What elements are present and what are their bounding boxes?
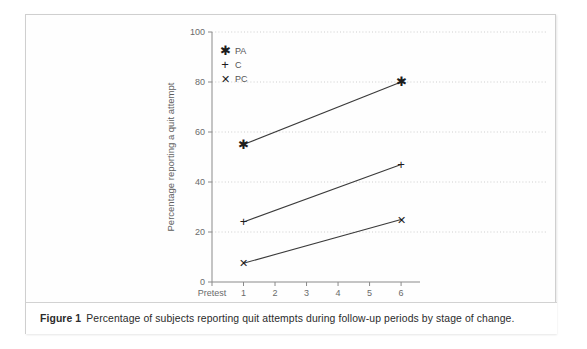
- series-line: [244, 220, 402, 264]
- y-axis-tick-label: 100: [190, 27, 205, 37]
- legend-label-pc: PC: [235, 74, 248, 84]
- data-series-group: ✱✱++✕✕: [238, 74, 407, 269]
- y-axis-ticks-group: 020406080100: [190, 27, 212, 287]
- x-axis-tick-label: 3: [304, 288, 309, 298]
- figure-frame: 020406080100 Pretest123456 Percentage re…: [25, 14, 556, 334]
- gridlines-group: [212, 32, 546, 232]
- chart-legend: ✱PA+C✕PC: [220, 43, 249, 85]
- x-axis-tick-label: 1: [241, 288, 246, 298]
- x-axis-tick-label: 4: [336, 288, 341, 298]
- series-pa: ✱✱: [238, 74, 407, 152]
- y-axis-tick-label: 80: [195, 77, 205, 87]
- chart-plot-region: 020406080100 Pretest123456 Percentage re…: [26, 15, 557, 300]
- line-chart: 020406080100 Pretest123456 Percentage re…: [26, 15, 557, 300]
- data-point-marker: ✕: [397, 214, 406, 226]
- series-pc: ✕✕: [239, 214, 406, 270]
- caption-label: Figure 1: [40, 313, 81, 324]
- x-axis-tick-label: Pretest: [198, 288, 227, 298]
- legend-label-c: C: [235, 60, 242, 70]
- caption-text-wrapper: Figure 1Percentage of subjects reporting…: [40, 312, 514, 325]
- series-line: [244, 82, 402, 145]
- x-axis-title: Months: [300, 298, 331, 300]
- y-axis-tick-label: 0: [200, 277, 205, 287]
- y-axis-title: Percentage reporting a quit attempt: [165, 82, 176, 231]
- data-point-marker: +: [397, 157, 405, 172]
- data-point-marker: +: [240, 214, 248, 229]
- x-axis-ticks-group: Pretest123456: [198, 282, 404, 298]
- x-axis-tick-label: 5: [367, 288, 372, 298]
- legend-marker-c: +: [221, 57, 229, 72]
- legend-marker-pa: ✱: [220, 43, 231, 58]
- figure-caption: Figure 1Percentage of subjects reporting…: [26, 303, 557, 334]
- series-c: ++: [240, 157, 405, 230]
- x-axis-tick-label: 2: [273, 288, 278, 298]
- y-axis-tick-label: 40: [195, 177, 205, 187]
- data-point-marker: ✱: [238, 137, 249, 152]
- legend-label-pa: PA: [235, 46, 246, 56]
- legend-marker-pc: ✕: [221, 73, 230, 85]
- y-axis-tick-label: 60: [195, 127, 205, 137]
- x-axis-tick-label: 6: [399, 288, 404, 298]
- data-point-marker: ✱: [396, 74, 407, 89]
- data-point-marker: ✕: [239, 257, 248, 269]
- series-line: [244, 165, 402, 223]
- y-axis-tick-label: 20: [195, 227, 205, 237]
- caption-body: Percentage of subjects reporting quit at…: [86, 313, 514, 324]
